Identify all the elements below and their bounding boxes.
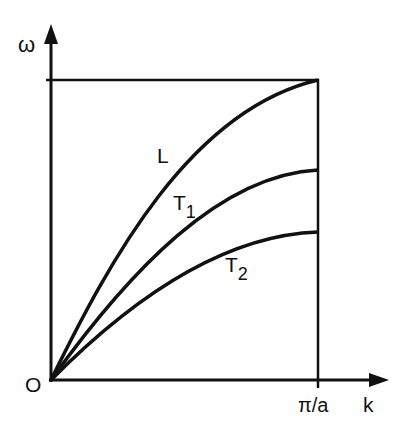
curve-T2 [51, 232, 318, 380]
y-axis-label: ω [18, 32, 35, 57]
dispersion-diagram: ω k O π/a L T1 T2 [0, 0, 409, 434]
y-axis-arrow-icon [44, 24, 58, 44]
diagram-svg: ω k O π/a L T1 T2 [0, 0, 409, 434]
curve-T1-label: T1 [173, 191, 196, 222]
x-axis-label: k [363, 393, 374, 416]
x-axis-arrow-icon [369, 373, 389, 387]
curve-T2-label: T2 [225, 253, 248, 284]
curve-L-label: L [157, 144, 169, 167]
origin-label: O [25, 373, 41, 396]
x-tick-pi-over-a: π/a [298, 394, 329, 416]
